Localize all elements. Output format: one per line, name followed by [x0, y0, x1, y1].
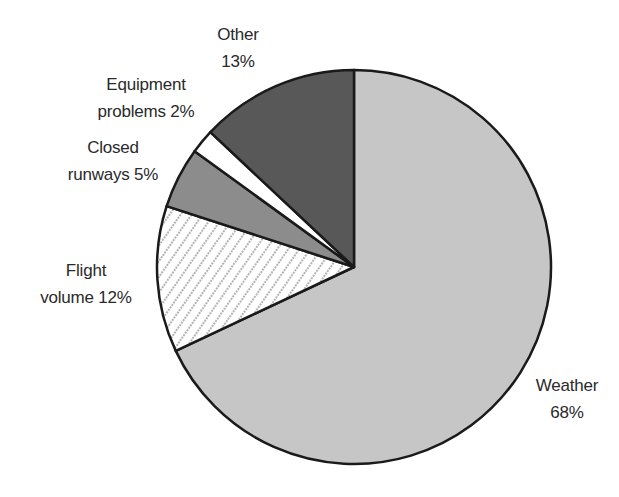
label-other-name: Other: [217, 21, 259, 48]
pie-chart: [0, 0, 619, 497]
label-equipment-value: problems 2%: [97, 98, 194, 125]
label-flight-name: Flight: [40, 257, 132, 284]
label-closed-name: Closed: [68, 134, 159, 161]
label-closed-value: runways 5%: [68, 161, 159, 188]
label-flight-volume: Flight volume 12%: [40, 257, 132, 311]
pie-slices: [157, 70, 551, 464]
label-equipment-problems: Equipment problems 2%: [97, 71, 194, 125]
label-other: Other 13%: [217, 21, 259, 75]
label-equipment-name: Equipment: [97, 71, 194, 98]
label-other-value: 13%: [217, 48, 259, 75]
label-flight-value: volume 12%: [40, 284, 132, 311]
label-weather-name: Weather: [536, 372, 599, 399]
label-closed-runways: Closed runways 5%: [68, 134, 159, 188]
label-weather-value: 68%: [536, 399, 599, 426]
label-weather: Weather 68%: [536, 372, 599, 426]
